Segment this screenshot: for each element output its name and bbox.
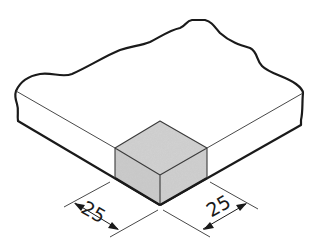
diagram-canvas: 25 25: [0, 0, 322, 248]
arrow-head-icon: [108, 222, 119, 230]
isometric-drawing: 25 25: [0, 0, 322, 248]
dimension-label-left: 25: [78, 196, 110, 227]
extension-line-left-inner: [110, 210, 158, 237]
dimension-label-right: 25: [202, 190, 234, 221]
arrow-head-icon: [236, 203, 247, 211]
extension-line-right-inner: [163, 210, 210, 237]
